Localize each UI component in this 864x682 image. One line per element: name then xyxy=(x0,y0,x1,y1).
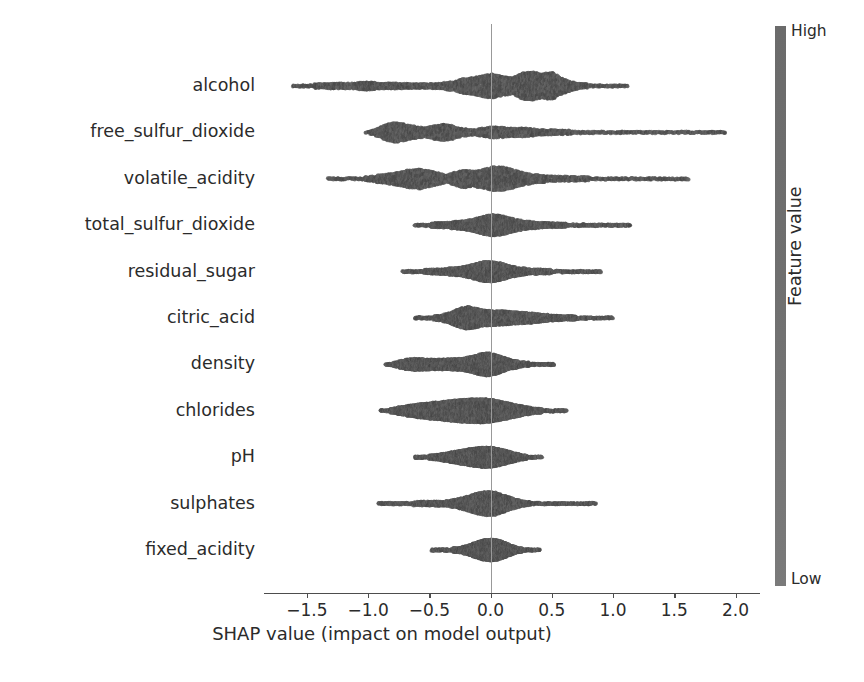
x-tick-label: 0.5 xyxy=(538,600,565,620)
x-tick-mark xyxy=(736,593,737,598)
feature-label-free-sulfur-dioxide: free_sulfur_dioxide xyxy=(90,124,255,142)
x-tick-label: −1.0 xyxy=(347,600,388,620)
feature-label-alcohol: alcohol xyxy=(192,77,255,95)
beeswarm-points-canvas xyxy=(264,24,760,593)
x-tick-label: 0.0 xyxy=(477,600,504,620)
feature-axis-labels: alcoholfree_sulfur_dioxidevolatile_acidi… xyxy=(0,0,255,682)
x-tick-label: −0.5 xyxy=(409,600,450,620)
colorbar-title: Feature value xyxy=(785,187,805,307)
feature-label-total-sulfur-dioxide: total_sulfur_dioxide xyxy=(85,216,255,234)
x-tick-mark xyxy=(613,593,614,598)
feature-label-residual-sugar: residual_sugar xyxy=(128,263,255,281)
colorbar-low-label: Low xyxy=(791,570,822,588)
feature-label-volatile-acidity: volatile_acidity xyxy=(124,170,255,188)
x-tick-mark xyxy=(552,593,553,598)
shap-beeswarm-figure: alcoholfree_sulfur_dioxidevolatile_acidi… xyxy=(0,0,864,682)
x-axis-line xyxy=(264,593,760,594)
feature-label-sulphates: sulphates xyxy=(170,495,255,513)
x-tick-mark xyxy=(307,593,308,598)
x-tick-label: 1.0 xyxy=(600,600,627,620)
feature-label-citric-acid: citric_acid xyxy=(167,309,255,327)
x-tick-mark xyxy=(429,593,430,598)
x-tick-mark xyxy=(368,593,369,598)
feature-label-fixed-acidity: fixed_acidity xyxy=(145,541,255,559)
x-tick-mark xyxy=(491,593,492,598)
x-tick-label: 2.0 xyxy=(722,600,749,620)
x-tick-label: 1.5 xyxy=(661,600,688,620)
feature-label-density: density xyxy=(191,356,255,374)
zero-reference-line xyxy=(491,24,492,593)
feature-label-chlorides: chlorides xyxy=(176,402,255,420)
feature-value-colorbar xyxy=(775,26,786,586)
beeswarm-plot-area xyxy=(264,24,760,593)
x-axis-title: SHAP value (impact on model output) xyxy=(0,623,864,644)
x-tick-label: −1.5 xyxy=(286,600,327,620)
colorbar-high-label: High xyxy=(791,22,827,40)
feature-label-pH: pH xyxy=(231,448,255,466)
x-tick-mark xyxy=(674,593,675,598)
